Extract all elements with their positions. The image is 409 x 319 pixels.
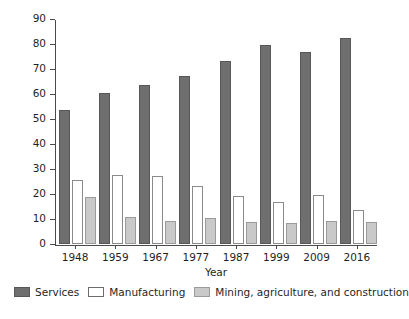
y-tick: 90 — [50, 19, 55, 20]
y-tick: 0 — [50, 244, 55, 245]
x-tick — [357, 245, 358, 249]
chart-legend: ServicesManufacturingMining, agriculture… — [14, 286, 409, 298]
bar-group — [59, 19, 96, 244]
bar-services — [99, 93, 110, 244]
y-tick: 20 — [50, 194, 55, 195]
bar-mining — [125, 217, 136, 244]
bar-services — [59, 110, 70, 244]
x-tick-label: 1959 — [92, 251, 138, 263]
x-tick-label: 2016 — [334, 251, 380, 263]
bar-services — [300, 52, 311, 245]
x-tick-label: 1977 — [173, 251, 219, 263]
y-tick: 10 — [50, 219, 55, 220]
x-tick-label: 1948 — [52, 251, 98, 263]
y-tick-label: 10 — [33, 212, 46, 224]
y-tick-label: 70 — [33, 62, 46, 74]
legend-label: Mining, agriculture, and construction — [215, 286, 409, 298]
bar-mining — [326, 221, 337, 245]
bar-services — [220, 61, 231, 244]
y-tick: 40 — [50, 144, 55, 145]
x-tick — [115, 245, 116, 249]
legend-swatch-icon — [194, 287, 210, 297]
y-tick: 50 — [50, 119, 55, 120]
y-tick-label: 30 — [33, 162, 46, 174]
bar-mining — [286, 223, 297, 244]
x-tick-label: 1987 — [213, 251, 259, 263]
x-tick — [317, 245, 318, 249]
y-tick-label: 20 — [33, 187, 46, 199]
legend-swatch-icon — [88, 287, 104, 297]
x-tick-label: 1967 — [133, 251, 179, 263]
legend-item-manufacturing: Manufacturing — [88, 286, 185, 298]
y-tick: 80 — [50, 44, 55, 45]
legend-label: Services — [35, 286, 79, 298]
bar-manufacturing — [192, 186, 203, 245]
bar-mining — [205, 218, 216, 244]
bar-manufacturing — [273, 202, 284, 244]
y-tick-label: 90 — [33, 12, 46, 24]
bar-group — [139, 19, 176, 244]
y-tick-label: 40 — [33, 137, 46, 149]
bar-manufacturing — [152, 176, 163, 244]
x-tick — [276, 245, 277, 249]
bar-group — [99, 19, 136, 244]
bar-group — [340, 19, 377, 244]
bar-group — [179, 19, 216, 244]
bar-mining — [366, 222, 377, 244]
x-tick — [156, 245, 157, 249]
legend-swatch-icon — [14, 287, 30, 297]
legend-item-services: Services — [14, 286, 79, 298]
legend-item-mining: Mining, agriculture, and construction — [194, 286, 409, 298]
y-tick: 70 — [50, 69, 55, 70]
x-axis-title: Year — [55, 266, 377, 278]
bar-services — [340, 38, 351, 244]
bar-manufacturing — [233, 196, 244, 244]
y-tick: 60 — [50, 94, 55, 95]
bar-manufacturing — [353, 210, 364, 244]
bar-services — [260, 45, 271, 244]
bar-mining — [165, 221, 176, 244]
legend-label: Manufacturing — [109, 286, 185, 298]
x-tick — [196, 245, 197, 249]
y-tick: 30 — [50, 169, 55, 170]
x-axis-line — [55, 245, 377, 246]
x-tick-label: 1999 — [253, 251, 299, 263]
bar-group — [300, 19, 337, 244]
x-tick — [75, 245, 76, 249]
bar-manufacturing — [112, 175, 123, 244]
bar-manufacturing — [72, 180, 83, 244]
bar-mining — [85, 197, 96, 244]
x-tick-label: 2009 — [294, 251, 340, 263]
x-tick — [236, 245, 237, 249]
bar-manufacturing — [313, 195, 324, 245]
y-tick-label: 50 — [33, 112, 46, 124]
bar-services — [139, 85, 150, 245]
bar-services — [179, 76, 190, 244]
bar-group — [220, 19, 257, 244]
y-tick-label: 80 — [33, 37, 46, 49]
y-tick-label: 0 — [39, 237, 46, 249]
bar-mining — [246, 222, 257, 244]
bar-group — [260, 19, 297, 244]
plot-area: 0102030405060708090 19481959196719771987… — [55, 20, 377, 245]
y-tick-label: 60 — [33, 87, 46, 99]
y-axis-line — [55, 20, 56, 246]
